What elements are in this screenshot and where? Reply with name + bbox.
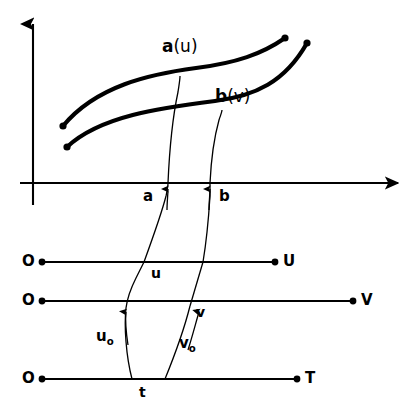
curve-b-label-paren: (v) xyxy=(227,86,250,106)
t-line-origin-dot xyxy=(39,376,46,383)
curve-b-label-bold: b xyxy=(215,86,227,106)
t-line-origin-label: O xyxy=(22,371,35,386)
u-point-label: u xyxy=(151,266,161,280)
u-line-end-label: U xyxy=(283,254,295,269)
u-line-end-dot xyxy=(272,259,279,266)
u-zero-subscript: o xyxy=(107,336,114,347)
curve-a-label-paren: (u) xyxy=(173,36,197,56)
u-zero-base: u xyxy=(96,327,107,345)
curve-b-end-point xyxy=(303,39,310,46)
figure-canvas: a(u) b(v) a b O U u O V v O T t uo vo xyxy=(0,0,416,418)
mapping-curve-a xyxy=(125,76,180,379)
v-point-label: v xyxy=(196,305,205,319)
curve-a-label: a(u) xyxy=(162,38,198,55)
v-line-origin-label: O xyxy=(22,293,35,308)
v-zero-subscript: o xyxy=(189,343,196,354)
curve-a-start-point xyxy=(59,122,66,129)
t-point-label: t xyxy=(139,385,146,399)
v-line-origin-dot xyxy=(39,298,46,305)
number-line-t xyxy=(39,376,301,383)
u-line-origin-label: O xyxy=(22,254,35,269)
v-line-end-label: V xyxy=(361,293,373,308)
v-zero-base: v xyxy=(179,334,189,352)
v-line-end-dot xyxy=(350,298,357,305)
u-zero-label: uo xyxy=(96,329,114,347)
t-line-end-label: T xyxy=(305,371,315,386)
axis-label-a: a xyxy=(143,189,153,204)
axis-label-b: b xyxy=(219,189,230,204)
curve-a-label-bold: a xyxy=(162,36,173,56)
v-zero-label: vo xyxy=(179,336,196,354)
curve-b-start-point xyxy=(63,143,70,150)
t-line-end-dot xyxy=(294,376,301,383)
u-line-origin-dot xyxy=(39,259,46,266)
curve-a-end-point xyxy=(281,34,288,41)
diagram-svg xyxy=(0,0,416,418)
curve-b-label: b(v) xyxy=(215,88,251,105)
